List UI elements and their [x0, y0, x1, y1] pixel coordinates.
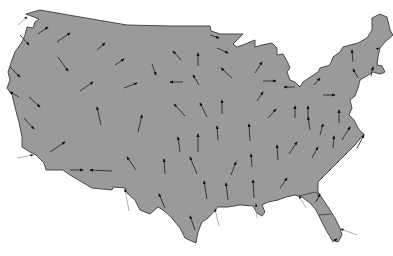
- us-landmass: [7, 10, 393, 243]
- map-figure: [0, 0, 393, 256]
- arrow-icon: [17, 155, 33, 158]
- arrow-icon: [341, 229, 357, 235]
- arrow-icon: [215, 209, 219, 226]
- us-vector-field-map: [0, 0, 393, 256]
- arrow-icon: [18, 17, 27, 25]
